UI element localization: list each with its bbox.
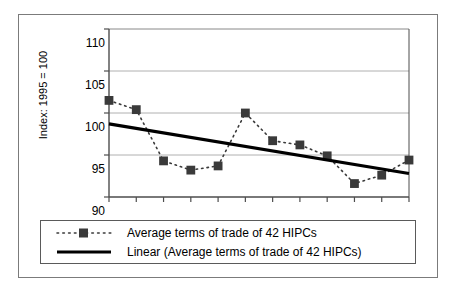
solid-line-key	[41, 243, 127, 261]
legend-label-average-terms-of-trade: Average terms of trade of 42 HIPCs	[127, 227, 317, 239]
dotted-square-marker-key	[41, 224, 127, 242]
series-line-linear-trend	[109, 124, 409, 174]
chart-canvas	[19, 15, 439, 215]
legend-label-linear-trend: Linear (Average terms of trade of 42 HIP…	[127, 246, 362, 258]
chart-legend: Average terms of trade of 42 HIPCs Linea…	[40, 220, 416, 264]
legend-item-linear-trend: Linear (Average terms of trade of 42 HIP…	[41, 242, 415, 262]
plot-area: Index: 1995 = 100 110 105 100 95 90 1990…	[19, 15, 439, 211]
x-axis-ticks	[109, 197, 409, 202]
legend-item-average-terms-of-trade: Average terms of trade of 42 HIPCs	[41, 223, 415, 243]
chart-figure: Index: 1995 = 100 110 105 100 95 90 1990…	[18, 14, 438, 278]
series-markers-average-terms-of-trade	[105, 96, 414, 188]
y-axis-ticks	[104, 29, 109, 197]
gridlines	[109, 29, 409, 155]
